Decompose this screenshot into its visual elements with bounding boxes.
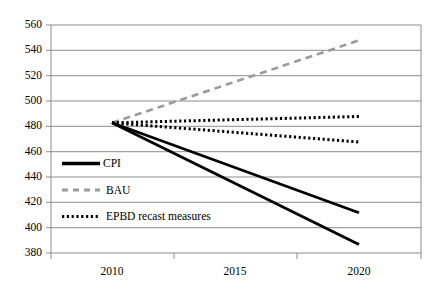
x-axis-label-2015: 2015 [205,266,265,278]
y-axis-label-400: 400 [6,222,42,234]
series-line-epbd-upper [112,117,359,123]
series-line-cpi-lower [112,123,359,245]
y-axis-label-440: 440 [6,171,42,183]
y-axis-label-500: 500 [6,95,42,107]
legend-label-cpi: CPI [103,158,121,170]
legend-label-bau: BAU [106,185,130,197]
y-axis-label-460: 460 [6,146,42,158]
x-axis-label-2010: 2010 [82,266,142,278]
y-axis-label-520: 520 [6,70,42,82]
chart-container: 560 540 520 500 480 460 440 420 400 380 … [0,0,439,297]
legend-label-epbd: EPBD recast measures [106,211,211,223]
x-axis-label-2020: 2020 [329,266,389,278]
y-axis-label-540: 540 [6,44,42,56]
y-axis-label-420: 420 [6,196,42,208]
y-axis-label-380: 380 [6,247,42,259]
series-line-cpi-upper [112,123,359,213]
y-axis-label-480: 480 [6,120,42,132]
y-tick-marks [46,25,51,253]
x-tick-marks [51,253,421,259]
series-line-epbd-lower [112,123,359,142]
series-line-bau [112,40,359,122]
y-axis-label-560: 560 [6,19,42,31]
chart-plot-area [0,0,439,297]
